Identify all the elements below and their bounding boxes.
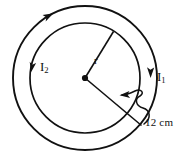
physics-figure: I2 I1 r 12 cm [0, 0, 195, 155]
outer-loop-arrowhead-right [147, 67, 154, 78]
inner-loop-current-label: I2 [40, 60, 49, 75]
radius-label: r [94, 55, 98, 66]
dimension-leader-arrowhead [119, 91, 130, 99]
outer-loop-current-subscript: 1 [161, 75, 165, 85]
inner-loop-current-subscript: 2 [44, 65, 48, 75]
outer-loop-current-label: I1 [157, 70, 166, 85]
radius-line-upper [85, 32, 114, 79]
radius-line-lower [85, 78, 142, 126]
dimension-label: 12 cm [145, 117, 173, 128]
figure-canvas [0, 0, 195, 155]
